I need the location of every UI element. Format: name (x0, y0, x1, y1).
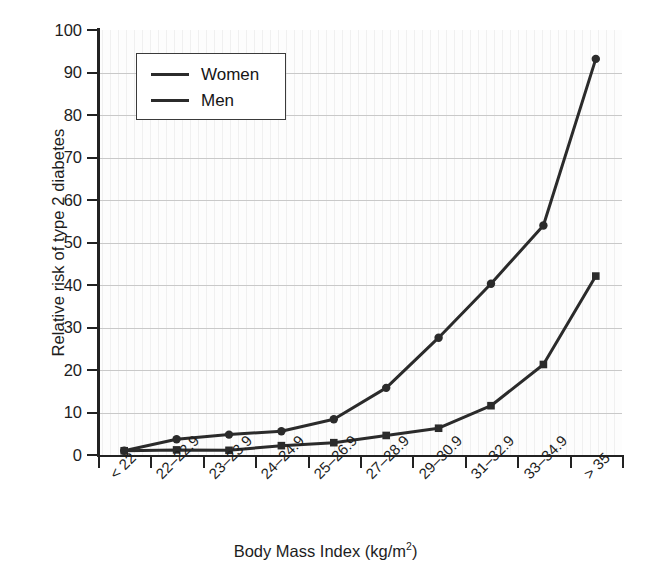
data-point-women-3 (277, 427, 285, 435)
series-layer (0, 0, 651, 577)
legend-line-icon-women (151, 73, 189, 76)
x-axis-title: Body Mass Index (kg/m2) (0, 540, 651, 561)
data-point-men-8 (540, 361, 548, 369)
legend-entry-men: Men (151, 88, 234, 112)
data-point-men-6 (435, 424, 443, 432)
x-axis-title-tail: ) (412, 542, 418, 560)
legend-entry-women: Women (151, 62, 259, 86)
x-axis-title-main: Body Mass Index (kg/m (234, 542, 406, 560)
data-point-women-9 (592, 55, 600, 63)
data-point-women-6 (434, 334, 442, 342)
chart-figure: Relative risk of type 2 diabetes 100 90 … (0, 0, 651, 577)
data-point-men-5 (382, 432, 390, 440)
data-point-women-2 (225, 430, 233, 438)
legend-line-icon-men (151, 99, 189, 102)
data-point-women-8 (539, 221, 547, 229)
data-point-women-4 (330, 415, 338, 423)
data-point-women-7 (487, 280, 495, 288)
legend-label-men: Men (201, 92, 234, 109)
legend-label-women: Women (201, 66, 259, 83)
series-men-line (120, 272, 599, 454)
data-point-women-5 (382, 384, 390, 392)
caption-sliver (0, 571, 651, 577)
data-point-men-9 (592, 272, 600, 280)
data-point-men-7 (487, 402, 495, 410)
legend: Women Men (136, 53, 286, 120)
